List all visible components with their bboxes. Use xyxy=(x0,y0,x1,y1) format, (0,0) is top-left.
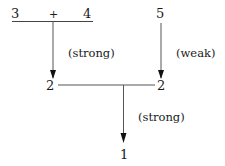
top-right-value: 5 xyxy=(156,6,164,21)
result-value: 1 xyxy=(120,147,128,162)
middle-right-value: 2 xyxy=(157,78,165,93)
right-edge-label: (weak) xyxy=(176,46,215,60)
bottom-arrowhead-icon xyxy=(121,133,127,143)
diagram-canvas: 3 + 4 5 (strong) (weak) 2 2 (strong) 1 xyxy=(0,0,225,166)
strength-diagram: 3 + 4 5 (strong) (weak) 2 2 (strong) 1 xyxy=(0,0,225,166)
left-edge-label: (strong) xyxy=(68,46,115,60)
top-operator: + xyxy=(49,8,58,21)
bottom-edge-label: (strong) xyxy=(138,110,185,124)
middle-left-value: 2 xyxy=(46,78,54,93)
top-right-operand: 4 xyxy=(83,6,91,21)
top-left-operand: 3 xyxy=(11,6,19,21)
